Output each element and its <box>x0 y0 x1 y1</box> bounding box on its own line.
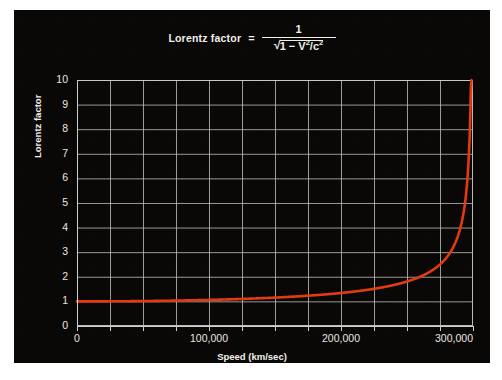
x-tick-mark <box>143 326 144 331</box>
y-tick-label: 10 <box>46 73 68 85</box>
lorentz-curve-path <box>77 80 471 301</box>
x-tick-mark <box>209 326 210 331</box>
lorentz-fraction: 1 √1 − V2/c2 <box>262 24 336 52</box>
x-tick-label: 0 <box>74 332 80 344</box>
x-tick-mark <box>308 326 309 331</box>
y-tick-label: 7 <box>46 147 68 159</box>
title-lead-text: Lorentz factor <box>168 32 241 44</box>
lorentz-curve <box>77 80 473 326</box>
fraction-numerator: 1 <box>296 24 302 37</box>
chart-figure: Lorentz factor = 1 √1 − V2/c2 0123456789… <box>14 10 490 363</box>
x-tick-mark <box>374 326 375 331</box>
x-tick-mark <box>242 326 243 331</box>
radicand-slash-c: /c <box>310 40 319 52</box>
equals-sign: = <box>248 32 254 44</box>
y-tick-label: 1 <box>46 294 68 306</box>
y-axis-line <box>77 80 78 327</box>
radicand: 1 − V2/c2 <box>280 40 324 52</box>
x-tick-label: 300,000 <box>435 332 473 344</box>
x-tick-mark <box>473 326 474 331</box>
x-tick-mark <box>407 326 408 331</box>
x-tick-mark <box>77 326 78 331</box>
y-tick-label: 4 <box>46 221 68 233</box>
x-tick-label: 200,000 <box>322 332 360 344</box>
x-tick-mark <box>110 326 111 331</box>
x-tick-mark <box>275 326 276 331</box>
y-tick-label: 3 <box>46 245 68 257</box>
plot-area <box>77 80 473 326</box>
y-axis-title: Lorentz factor <box>32 95 43 158</box>
radicand-sup-2: 2 <box>319 39 323 48</box>
x-tick-mark <box>440 326 441 331</box>
y-tick-label: 2 <box>46 270 68 282</box>
chart-title: Lorentz factor = 1 √1 − V2/c2 <box>14 24 490 52</box>
x-tick-mark <box>176 326 177 331</box>
x-tick-mark <box>341 326 342 331</box>
y-tick-label: 6 <box>46 171 68 183</box>
x-tick-label: 100,000 <box>190 332 228 344</box>
radicand-body: 1 − V <box>280 40 306 52</box>
x-axis-title: Speed (km/sec) <box>14 351 490 362</box>
y-tick-label: 8 <box>46 122 68 134</box>
y-tick-label: 5 <box>46 196 68 208</box>
fraction-denominator: √1 − V2/c2 <box>274 38 323 52</box>
y-tick-label: 0 <box>46 319 68 331</box>
y-tick-label: 9 <box>46 98 68 110</box>
